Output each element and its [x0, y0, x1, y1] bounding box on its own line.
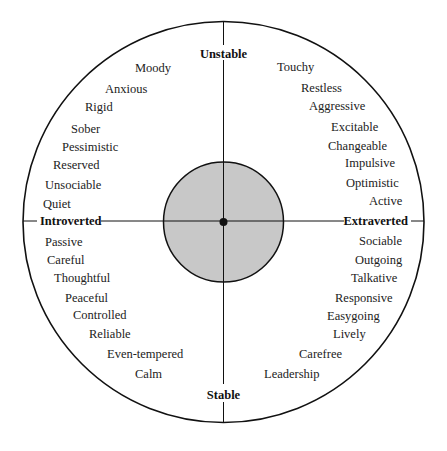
trait-quiet: Quiet [43, 197, 71, 211]
trait-carefree: Carefree [299, 347, 342, 361]
trait-optimistic: Optimistic [346, 176, 399, 190]
trait-even-tempered: Even-tempered [107, 347, 184, 361]
axis-label-introverted: Introverted [40, 214, 102, 228]
trait-easygoing: Easygoing [327, 309, 381, 323]
trait-moody: Moody [135, 61, 172, 75]
trait-reliable: Reliable [89, 327, 131, 341]
trait-sociable: Sociable [359, 234, 402, 248]
trait-talkative: Talkative [351, 271, 398, 285]
trait-responsive: Responsive [335, 291, 393, 305]
trait-controlled: Controlled [73, 308, 127, 322]
trait-passive: Passive [45, 235, 83, 249]
trait-anxious: Anxious [105, 82, 148, 96]
trait-excitable: Excitable [331, 120, 379, 134]
trait-restless: Restless [301, 81, 342, 95]
trait-active: Active [369, 194, 403, 208]
trait-impulsive: Impulsive [345, 156, 395, 170]
axis-label-unstable: Unstable [200, 47, 248, 61]
trait-pessimistic: Pessimistic [62, 140, 119, 154]
trait-sober: Sober [71, 122, 101, 136]
trait-unsociable: Unsociable [45, 178, 102, 192]
trait-touchy: Touchy [277, 60, 315, 74]
personality-circle-diagram: Unstable Stable Introverted Extraverted … [0, 0, 447, 451]
trait-calm: Calm [135, 367, 162, 381]
trait-changeable: Changeable [328, 139, 387, 153]
axis-label-extraverted: Extraverted [343, 214, 408, 228]
axis-label-stable: Stable [207, 388, 241, 402]
center-dot [220, 218, 228, 226]
trait-peaceful: Peaceful [65, 291, 109, 305]
trait-leadership: Leadership [264, 367, 320, 381]
trait-thoughtful: Thoughtful [54, 271, 111, 285]
trait-reserved: Reserved [53, 158, 100, 172]
trait-lively: Lively [333, 327, 366, 341]
trait-rigid: Rigid [85, 100, 114, 114]
trait-careful: Careful [47, 253, 85, 267]
trait-aggressive: Aggressive [309, 99, 366, 113]
trait-outgoing: Outgoing [355, 253, 403, 267]
